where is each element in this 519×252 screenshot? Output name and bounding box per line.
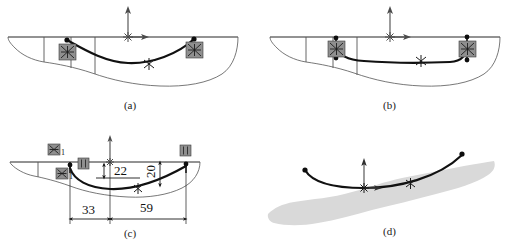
panel-a: (a)	[0, 0, 260, 126]
caption-a: (a)	[0, 99, 260, 111]
caption-d: (d)	[260, 225, 519, 237]
tangent-endpoint-icon[interactable]	[465, 58, 470, 63]
hull-outline-c	[10, 162, 200, 197]
fixture-constraint-icon-1[interactable]	[48, 144, 60, 155]
fixture-constraint-icon[interactable]	[459, 41, 476, 57]
spline-node-icon[interactable]	[191, 36, 196, 41]
spline-curve-c	[70, 166, 186, 189]
fixture-constraint-icon[interactable]	[328, 41, 345, 57]
dimension-33-label: 33	[82, 202, 95, 217]
fixture-subscript-1-lower: 1	[69, 172, 73, 181]
panel-b: (b)	[260, 0, 519, 126]
spline-curve-a	[67, 39, 194, 63]
spline-node-icon[interactable]	[64, 37, 69, 42]
fixture-constraint-icon-1-lower[interactable]	[56, 168, 68, 179]
dimension-constraint-icon[interactable]	[78, 158, 89, 169]
dimension-constraint-icon[interactable]	[180, 145, 191, 156]
dimension-22: 22	[96, 163, 140, 180]
fixture-constraint-icon[interactable]	[186, 42, 203, 58]
coordinate-origin-icon	[123, 6, 149, 42]
dimension-59: 59	[109, 200, 188, 221]
spline-node-icon[interactable]	[459, 151, 464, 156]
hull-plate-region	[268, 161, 495, 225]
dimension-33: 33	[69, 202, 112, 221]
coordinate-origin-icon	[359, 158, 382, 193]
spline-node-icon[interactable]	[302, 167, 307, 172]
dimension-59-label: 59	[140, 200, 153, 215]
caption-b: (b)	[260, 99, 519, 111]
dimension-20-label: 20	[143, 165, 158, 178]
fixture-subscript-1: 1	[61, 148, 65, 157]
caption-c: (c)	[0, 227, 260, 239]
fixture-constraint-icon[interactable]	[59, 44, 76, 60]
figure-panel-grid: (a)	[0, 0, 519, 252]
spline-midpoint-icon	[416, 55, 426, 67]
spline-curve-b	[336, 44, 467, 63]
dimension-22-label: 22	[114, 163, 127, 178]
panel-c: 1 1	[0, 126, 260, 252]
coordinate-origin-icon	[385, 6, 411, 42]
panel-d: (d)	[260, 126, 519, 252]
spline-node-icon[interactable]	[465, 35, 470, 40]
spline-node-icon[interactable]	[334, 36, 339, 41]
